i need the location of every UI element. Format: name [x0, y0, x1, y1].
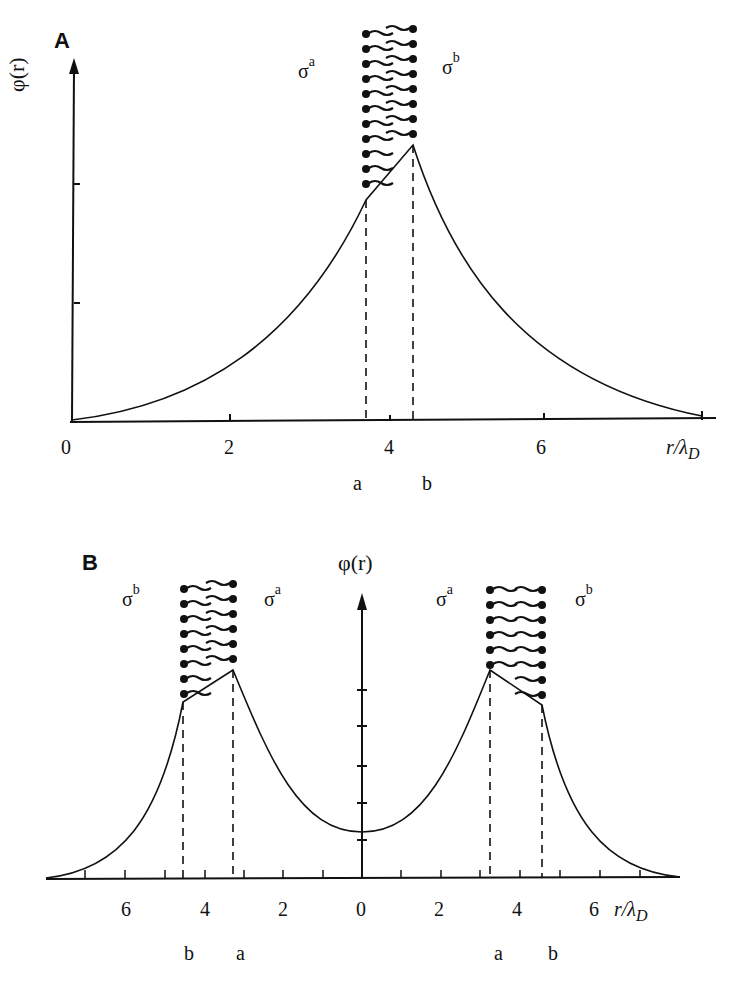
panel-b-boundary-a-right: a [494, 942, 503, 965]
panel-b-axes [46, 593, 680, 879]
panel-a-boundary-a: a [353, 472, 362, 495]
panel-b-sigma-b-left: σb [122, 586, 140, 611]
panel-b-sigma-a-right: σa [436, 586, 453, 611]
panel-a-sigma-a: σa [298, 58, 315, 83]
panel-a-x-label: r/λD [666, 436, 700, 463]
panel-b-boundary-b-right: b [548, 942, 558, 965]
panel-a-y-label: φ(r) [4, 57, 30, 92]
figure-graphics [0, 0, 744, 994]
panel-b-tick-4: 4 [512, 898, 522, 921]
panel-b-tick-neg4: 4 [200, 898, 210, 921]
panel-a-tick-0: 0 [61, 436, 71, 459]
panel-b-boundary-b-left: b [184, 942, 194, 965]
panel-b-sigma-a-left: σa [264, 586, 281, 611]
panel-a-bilayer [362, 25, 417, 188]
panel-a-boundary-b: b [422, 472, 432, 495]
panel-a-tick-2: 2 [224, 436, 234, 459]
panel-b-tick-neg2: 2 [278, 898, 288, 921]
panel-b-tick-6: 6 [589, 898, 599, 921]
panel-a-tick-4: 4 [384, 436, 394, 459]
panel-b-sigma-b-right: σb [575, 586, 593, 611]
panel-a-axes [69, 58, 716, 422]
panel-a-sigma-b: σb [442, 54, 460, 79]
panel-b-bilayer-left [180, 580, 237, 698]
panel-a-label: A [54, 28, 70, 54]
panel-a-tick-6: 6 [536, 436, 546, 459]
panel-b-tick-0: 0 [356, 898, 366, 921]
panel-a-curve [72, 145, 702, 420]
panel-b-x-label: r/λD [614, 898, 648, 925]
panel-b-y-label: φ(r) [338, 550, 373, 576]
panel-b-label: B [82, 550, 98, 576]
panel-b-boundary-a-left: a [236, 942, 245, 965]
panel-b-bilayer-right [486, 586, 546, 699]
panel-b-tick-2: 2 [434, 898, 444, 921]
panel-b-tick-neg6: 6 [121, 898, 131, 921]
